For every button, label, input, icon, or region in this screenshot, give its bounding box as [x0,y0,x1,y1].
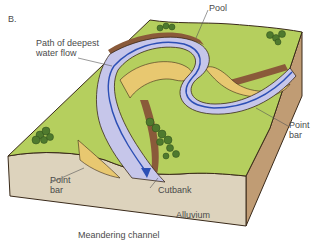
figure-caption: Meandering channel [78,230,160,240]
label-alluvium: Alluvium [176,210,210,220]
panel-label: B. [8,14,17,24]
label-cutbank: Cutbank [158,185,192,195]
label-point-bar-left-1: Point [50,175,71,185]
label-point-bar-left-2: bar [50,185,63,195]
label-point-bar-right-1: Point [289,120,310,130]
meander-block-diagram [0,0,312,241]
label-water-flow: water flow [36,48,77,58]
label-point-bar-right-2: bar [289,130,302,140]
label-pool: Pool [209,3,227,13]
label-path-of-deepest: Path of deepest [36,38,99,48]
